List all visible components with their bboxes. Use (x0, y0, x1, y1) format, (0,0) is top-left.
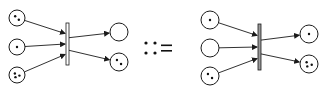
place-circle (110, 23, 128, 41)
operator-dot (144, 41, 147, 44)
token-dot (14, 76, 16, 78)
place (201, 11, 219, 29)
operator-dot (153, 41, 156, 44)
place (201, 39, 219, 57)
output-arc (69, 50, 109, 59)
place-circle (201, 67, 219, 85)
left-petri-net (9, 10, 128, 83)
place (300, 25, 318, 43)
place (201, 67, 219, 85)
operator-equals-bar (161, 50, 172, 52)
token-dot (120, 63, 122, 65)
input-arc (219, 47, 257, 48)
token-dot (207, 73, 209, 75)
output-arc (69, 33, 109, 38)
input-arc (24, 55, 65, 72)
token-dot (14, 15, 16, 17)
place (9, 10, 25, 26)
token-dot (116, 59, 118, 61)
place-circle (9, 67, 25, 83)
place (9, 67, 25, 83)
petri-net-rewrite-diagram: ::= (0, 0, 325, 94)
operator-dot (153, 51, 156, 54)
token-dot (308, 33, 310, 35)
place-circle (300, 55, 318, 73)
operator-equals-bar (161, 45, 172, 47)
input-arc (218, 59, 257, 73)
input-arc (25, 44, 65, 47)
token-dot (305, 61, 307, 63)
transition-bar (258, 24, 261, 70)
right-petri-net (201, 11, 318, 85)
token-dot (306, 65, 308, 67)
operator-dot (144, 51, 147, 54)
place (9, 39, 25, 55)
input-arc (219, 23, 257, 36)
output-arc (261, 54, 299, 62)
token-dot (16, 46, 18, 48)
transition-bar (66, 23, 69, 65)
place-circle (110, 53, 128, 71)
token-dot (18, 19, 20, 21)
place (300, 55, 318, 73)
token-dot (14, 72, 16, 74)
place (110, 23, 128, 41)
place-circle (201, 39, 219, 57)
token-dot (311, 63, 313, 65)
place-circle (9, 10, 25, 26)
input-arc (25, 20, 65, 33)
token-dot (211, 77, 213, 79)
token-dot (18, 74, 20, 76)
token-dot (209, 19, 211, 21)
output-arc (261, 35, 299, 40)
place (110, 53, 128, 71)
